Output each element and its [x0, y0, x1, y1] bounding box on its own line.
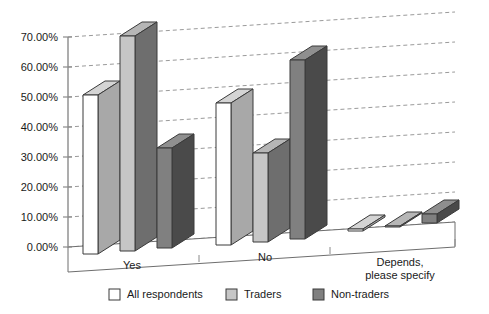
bar-front-face: [157, 148, 172, 248]
bar-side-face: [268, 139, 290, 242]
bar-no-traders[interactable]: [253, 139, 290, 242]
bar-no-all-respondents[interactable]: [216, 89, 253, 245]
category-label-depends-line2: please specify: [365, 269, 435, 281]
chart-container: 70.00% 60.00% 50.00% 40.00% 30.00% 20.00…: [0, 0, 489, 314]
legend-label-non-traders: Non-traders: [331, 288, 390, 300]
bar-depends-non-traders[interactable]: [422, 200, 459, 223]
y-axis-label-20: 20.00%: [21, 181, 59, 193]
bar-side-face: [135, 22, 157, 251]
legend-swatch-traders[interactable]: [226, 289, 237, 300]
legend-label-all-respondents: All respondents: [127, 288, 203, 300]
bar-front-face: [348, 229, 363, 231]
bar-front-face: [422, 214, 437, 223]
bar-front-face: [253, 153, 268, 242]
bar-yes-traders[interactable]: [120, 22, 157, 251]
legend-label-traders: Traders: [244, 288, 282, 300]
y-axis-label-10: 10.00%: [21, 211, 59, 223]
category-label-yes: Yes: [123, 259, 141, 271]
legend-swatch-non-traders[interactable]: [313, 289, 324, 300]
bar-front-face: [83, 95, 98, 254]
three-d-column-chart: 70.00% 60.00% 50.00% 40.00% 30.00% 20.00…: [0, 0, 489, 314]
y-axis-label-40: 40.00%: [21, 121, 59, 133]
bar-group-yes: [83, 22, 194, 254]
bar-yes-non-traders[interactable]: [157, 134, 194, 248]
bar-no-non-traders[interactable]: [290, 46, 327, 239]
bar-side-face: [172, 134, 194, 248]
bar-front-face: [290, 60, 305, 239]
bar-yes-all-respondents[interactable]: [83, 81, 120, 254]
y-axis-label-50: 50.00%: [21, 91, 59, 103]
category-label-no: No: [258, 251, 272, 263]
legend: All respondents Traders Non-traders: [109, 288, 390, 300]
y-axis-label-70: 70.00%: [21, 31, 59, 43]
category-label-depends-line1: Depends,: [376, 256, 423, 268]
legend-swatch-all-respondents[interactable]: [109, 289, 120, 300]
y-axis: 70.00% 60.00% 50.00% 40.00% 30.00% 20.00…: [21, 31, 72, 253]
bar-side-face: [98, 81, 120, 254]
y-axis-label-30: 30.00%: [21, 151, 59, 163]
bar-side-face: [231, 89, 253, 245]
bar-front-face: [120, 36, 135, 251]
y-axis-label-0: 0.00%: [27, 241, 58, 253]
bar-group-no: [216, 46, 327, 245]
bar-front-face: [385, 226, 400, 227]
bar-front-face: [216, 103, 231, 245]
y-axis-label-60: 60.00%: [21, 61, 59, 73]
bar-side-face: [305, 46, 327, 239]
